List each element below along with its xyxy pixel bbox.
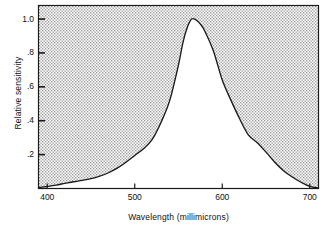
- shaded-region: [33, 0, 325, 188]
- x-axis-title: Wavelength (millimicrons): [38, 212, 319, 222]
- x-tick-label: 400: [27, 193, 67, 202]
- x-axis-tick-labels: 400500600700: [0, 193, 330, 207]
- x-tick-label: 500: [115, 193, 155, 202]
- x-tick-label: 600: [202, 193, 242, 202]
- x-tick-label: 700: [290, 193, 330, 202]
- chart-figure: .2.4.6.81.0 400500600700 Relative sensit…: [0, 0, 330, 233]
- x-axis-ticks: [47, 184, 310, 189]
- y-axis-title: Relative sensitivity: [13, 28, 23, 158]
- y-tick-label: 1.0: [8, 15, 34, 24]
